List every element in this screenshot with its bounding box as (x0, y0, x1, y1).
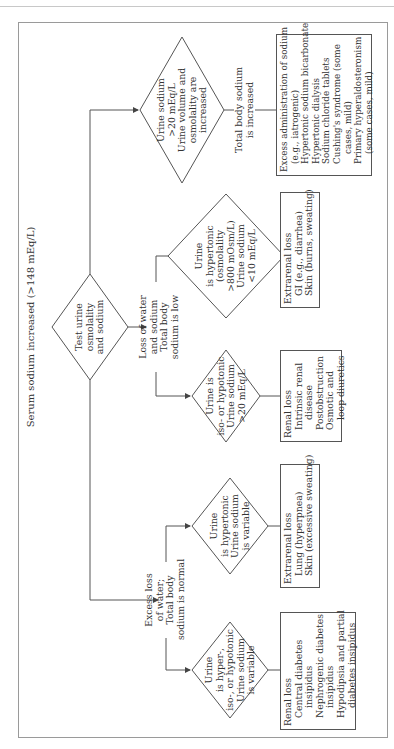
diamond-low-extrarenal: Urine is hypertonic (osmolality >800 mOs… (194, 210, 258, 302)
label-line: sodium is normal (176, 560, 187, 640)
diamond-line: Urine (194, 210, 205, 302)
box-heading: Renal loss (283, 354, 294, 438)
label-normal-sodium: Excess loss of water; Total body sodium … (144, 560, 186, 640)
start-line: Test urine (74, 287, 85, 367)
diamond-line: is variable (241, 482, 252, 570)
box-item: loop diuretics (336, 354, 347, 438)
box-item: Cushing's syndrome (some (332, 38, 343, 172)
start-line: and sodium (95, 287, 106, 367)
box-item: Skin (excessive sweating) (304, 468, 315, 584)
diamond-normal-extrarenal: Urine is hypertonic Urine sodium is vari… (209, 482, 251, 570)
box-item: Hypodipsia and partial (336, 616, 347, 726)
diamond-line: Urine (209, 482, 220, 570)
flowchart-hypernatremia: Serum sodium increased (>148 mEq/L) Test… (18, 22, 388, 738)
diamond-increased: Urine sodium >20 mEq/L Urine volume and … (156, 60, 209, 160)
label-line: is increased (245, 60, 256, 160)
diamond-line: increased (198, 60, 209, 160)
box-excess-sodium: Excess administration of sodium (e.g., i… (276, 34, 372, 176)
box-item: Primary hyperaldosteronism (353, 38, 364, 172)
diamond-line: >20 mEq/L (237, 352, 248, 440)
box-item: Skin (burns, sweating) (304, 196, 315, 304)
box-extrarenal-loss-low: Extrarenal loss GI (e.g., diarrhea) Skin… (280, 192, 320, 308)
box-item: Hypertonic sodium bicarbonate (300, 38, 311, 172)
box-item: Sodium chloride tablets (321, 38, 332, 172)
diamond-line: is variable (246, 626, 257, 714)
box-heading: Extrarenal loss (283, 468, 294, 584)
label-line: Total body sodium (234, 60, 245, 160)
diamond-low-renal: Urine is iso- or hypotonic Urine sodium … (205, 352, 247, 440)
diamond-line: Urine is (205, 352, 216, 440)
diamond-line: Urine sodium (156, 60, 167, 160)
box-item: Hypertonic dialysis (311, 38, 322, 172)
box-extrarenal-loss-normal: Extrarenal loss Lung (hyperpnea) Skin (e… (280, 464, 320, 588)
title-serum-sodium: Serum sodium increased (>148 mEq/L) (26, 216, 37, 438)
box-item: diabetes insipidus (347, 616, 358, 726)
box-item: cases, mild) (343, 38, 354, 172)
label-increased-sodium: Total body sodium is increased (234, 60, 255, 160)
box-renal-loss-low: Renal loss Intrinsic renal disease Posto… (280, 350, 342, 442)
label-low-sodium: Loss of water and sodium Total body sodi… (138, 282, 180, 372)
box-heading: Renal loss (283, 616, 294, 726)
label-line: Excess loss (144, 560, 155, 640)
box-heading: Extrarenal loss (283, 196, 294, 304)
label-line: sodium is low (170, 282, 181, 372)
box-item: (e.g., iatrogenic) (290, 38, 301, 172)
box-item: (some cases, mild) (364, 38, 375, 172)
box-renal-loss-normal: Renal loss Central diabetes insipidus Ne… (280, 612, 356, 730)
diamond-line: <10 mEq/L (247, 210, 258, 302)
page-header-rule (0, 6, 394, 7)
start-diamond-text: Test urine osmolality and sodium (74, 287, 106, 367)
diamond-normal-renal: Urine is hyper-, iso-, or hypotonic Urin… (204, 626, 257, 714)
diamond-line: Urine (204, 626, 215, 714)
box-heading: Excess administration of sodium (279, 38, 290, 172)
label-line: Loss of water (138, 282, 149, 372)
